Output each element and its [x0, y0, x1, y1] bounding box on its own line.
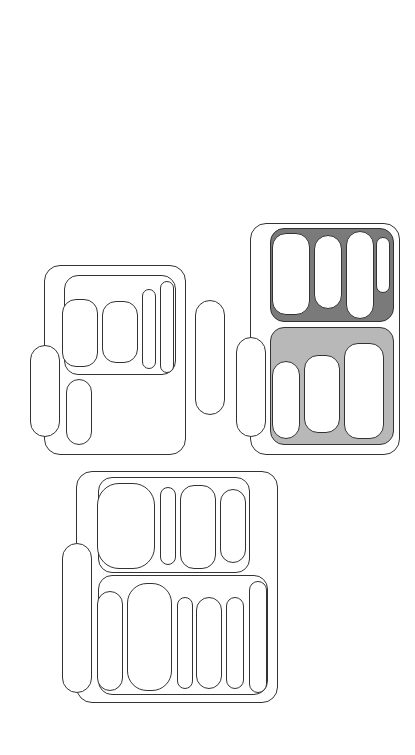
- head-line-problems: [236, 337, 266, 437]
- item-sun-proof: [177, 597, 193, 689]
- item-material-resistant: [127, 583, 172, 691]
- head-water-drain: [195, 300, 225, 415]
- item-simple: [160, 487, 176, 565]
- item-gathers-line: [346, 231, 374, 319]
- item-last-seasons: [97, 591, 123, 691]
- item-line-stays: [344, 343, 384, 439]
- item-line-stationary: [304, 355, 340, 433]
- item-cast-without-drag: [376, 237, 390, 293]
- item-easy-detach: [66, 379, 92, 445]
- affinity-diagram: [0, 0, 415, 755]
- item-belt-adjustable: [142, 289, 156, 369]
- item-comfortable: [62, 299, 98, 367]
- item-corrosion-resistant: [196, 597, 222, 689]
- item-lightweight: [160, 281, 174, 373]
- item-inner-edge: [102, 301, 138, 363]
- item-tangle-free: [314, 235, 342, 309]
- item-line-moves: [272, 361, 300, 439]
- item-colorfast: [226, 597, 244, 689]
- item-line-comes-out: [272, 233, 310, 315]
- head-visible-characteristics: [62, 543, 92, 693]
- item-belt-sturdy: [249, 581, 267, 693]
- head-easy-to-wear: [30, 345, 60, 437]
- item-purchase-criteria: [97, 483, 155, 569]
- item-suitable-color: [220, 489, 246, 563]
- item-better-than-homemade: [180, 485, 216, 569]
